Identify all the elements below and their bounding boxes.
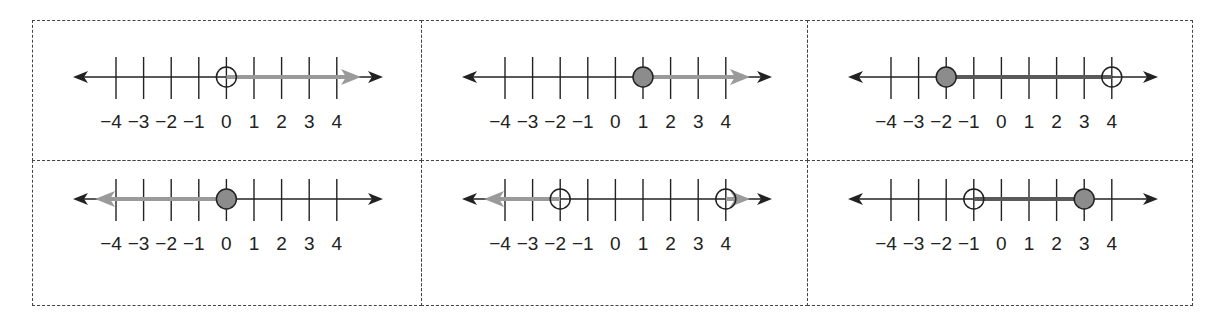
number-line-graphic: −4−3−2−101234 (808, 21, 1193, 161)
tick-label: 4 (721, 111, 732, 132)
tick-label: −1 (958, 233, 980, 254)
tick-label: −2 (930, 111, 952, 132)
number-line-panel-3: −4−3−2−101234 (807, 20, 1193, 161)
tick-label: 3 (693, 233, 704, 254)
tick-label: 3 (304, 233, 315, 254)
number-line-graphic: −4−3−2−101234 (808, 161, 1193, 306)
tick-label: 2 (665, 233, 676, 254)
closed-dot-icon (1074, 189, 1094, 209)
tick-label: −4 (875, 233, 897, 254)
number-line-panel-4: −4−3−2−101234 (32, 160, 422, 306)
tick-label: 0 (221, 111, 232, 132)
tick-label: 4 (332, 233, 343, 254)
tick-label: −2 (155, 111, 177, 132)
tick-label: 2 (1051, 111, 1062, 132)
number-line-panel-2: −4−3−2−101234 (421, 20, 808, 161)
tick-label: −3 (903, 111, 925, 132)
tick-label: −4 (100, 111, 122, 132)
closed-dot-icon (936, 67, 956, 87)
tick-label: −3 (128, 111, 150, 132)
number-line-panel-6: −4−3−2−101234 (807, 160, 1193, 306)
tick-label: −4 (489, 233, 511, 254)
tick-label: −4 (100, 233, 122, 254)
closed-dot-icon (633, 67, 653, 87)
tick-label: −2 (930, 233, 952, 254)
number-line-worksheet: −4−3−2−101234−4−3−2−101234−4−3−2−101234−… (32, 20, 1192, 305)
tick-label: 2 (276, 233, 287, 254)
tick-label: 2 (1051, 233, 1062, 254)
tick-label: 4 (721, 233, 732, 254)
tick-label: −1 (572, 233, 594, 254)
tick-label: 4 (1107, 233, 1118, 254)
tick-label: 1 (638, 111, 649, 132)
tick-label: 0 (221, 233, 232, 254)
tick-label: 3 (1079, 111, 1090, 132)
tick-label: −2 (544, 111, 566, 132)
tick-label: −2 (544, 233, 566, 254)
number-line-graphic: −4−3−2−101234 (422, 161, 808, 306)
tick-label: −3 (903, 233, 925, 254)
number-line-graphic: −4−3−2−101234 (422, 21, 808, 161)
tick-label: 0 (996, 111, 1007, 132)
tick-label: −3 (128, 233, 150, 254)
number-line-graphic: −4−3−2−101234 (33, 161, 422, 306)
tick-label: 1 (638, 233, 649, 254)
tick-label: 3 (693, 111, 704, 132)
tick-label: −2 (155, 233, 177, 254)
number-line-panel-5: −4−3−2−101234 (421, 160, 808, 306)
tick-label: 1 (249, 111, 260, 132)
tick-label: 0 (996, 233, 1007, 254)
tick-label: −3 (517, 233, 539, 254)
tick-label: 2 (665, 111, 676, 132)
tick-label: 4 (332, 111, 343, 132)
tick-label: −1 (572, 111, 594, 132)
tick-label: 1 (1024, 111, 1035, 132)
tick-label: −1 (183, 233, 205, 254)
tick-label: 1 (249, 233, 260, 254)
tick-label: −1 (958, 111, 980, 132)
tick-label: −3 (517, 111, 539, 132)
tick-label: 1 (1024, 233, 1035, 254)
tick-label: 2 (276, 111, 287, 132)
tick-label: 0 (610, 111, 621, 132)
tick-label: −4 (875, 111, 897, 132)
tick-label: 0 (610, 233, 621, 254)
tick-label: −4 (489, 111, 511, 132)
number-line-panel-1: −4−3−2−101234 (32, 20, 422, 161)
tick-label: −1 (183, 111, 205, 132)
tick-label: 3 (1079, 233, 1090, 254)
closed-dot-icon (216, 189, 236, 209)
tick-label: 3 (304, 111, 315, 132)
tick-label: 4 (1107, 111, 1118, 132)
number-line-graphic: −4−3−2−101234 (33, 21, 422, 161)
